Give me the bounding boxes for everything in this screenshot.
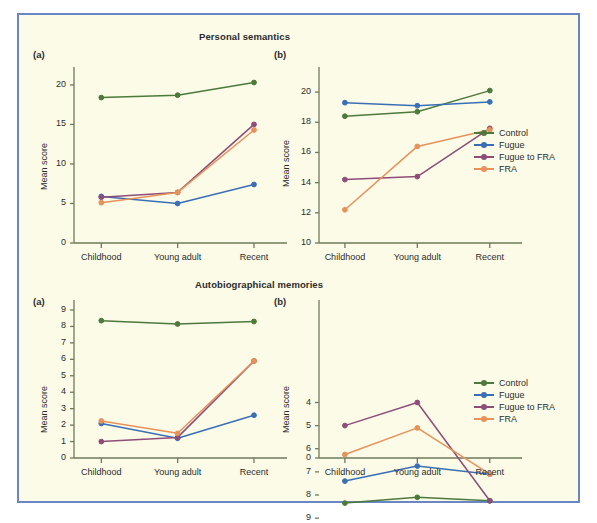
- data-point: [343, 207, 348, 212]
- y-tick-label: 9: [40, 304, 66, 314]
- x-tick-label: Childhood: [61, 467, 141, 477]
- y-tick-label: 5: [40, 370, 66, 380]
- legend-marker-icon: [474, 401, 494, 413]
- data-point: [343, 452, 348, 457]
- y-tick-label: 9: [285, 512, 311, 522]
- legend-label: Control: [499, 127, 528, 139]
- y-tick-label: 5: [285, 420, 311, 430]
- legend-label: Control: [499, 377, 528, 389]
- data-point: [99, 195, 104, 200]
- legend-item: Fugue: [474, 139, 555, 151]
- data-point: [175, 322, 180, 327]
- y-tick-label: 3: [40, 403, 66, 413]
- data-point: [415, 144, 420, 149]
- x-tick-label: Recent: [214, 467, 294, 477]
- series-line: [345, 403, 490, 501]
- y-tick-label: 4: [40, 386, 66, 396]
- legend-personal-semantics: ControlFugueFugue to FRAFRA: [474, 127, 555, 175]
- legend-marker-icon: [474, 389, 494, 401]
- legend-label: FRA: [499, 413, 517, 425]
- data-point: [415, 400, 420, 405]
- legend-item: Fugue to FRA: [474, 151, 555, 163]
- data-point: [99, 439, 104, 444]
- legend-label: Fugue: [499, 389, 525, 401]
- data-point: [343, 423, 348, 428]
- series-line: [345, 128, 490, 179]
- legend-label: FRA: [499, 163, 517, 175]
- data-point: [252, 182, 257, 187]
- legend-item: FRA: [474, 163, 555, 175]
- legend-marker-icon: [474, 127, 494, 139]
- data-point: [99, 95, 104, 100]
- x-tick-label: Childhood: [61, 252, 141, 262]
- y-tick-label: 8: [40, 320, 66, 330]
- y-tick-label: 2: [40, 419, 66, 429]
- data-point: [343, 177, 348, 182]
- x-tick-label: Childhood: [305, 252, 385, 262]
- data-point: [252, 359, 257, 364]
- x-tick-label: Recent: [450, 467, 530, 477]
- data-point: [343, 100, 348, 105]
- legend-item: Control: [474, 127, 555, 139]
- y-tick-label: 12: [285, 207, 311, 217]
- y-tick-label: 10: [40, 158, 66, 168]
- data-point: [487, 100, 492, 105]
- data-point: [175, 201, 180, 206]
- y-tick-label: 10: [285, 237, 311, 247]
- data-point: [175, 93, 180, 98]
- data-point: [252, 319, 257, 324]
- data-point: [415, 426, 420, 431]
- data-point: [343, 114, 348, 119]
- x-tick-label: Young adult: [377, 467, 457, 477]
- data-point: [252, 413, 257, 418]
- legend-label: Fugue: [499, 139, 525, 151]
- data-point: [175, 431, 180, 436]
- legend-marker-icon: [474, 151, 494, 163]
- data-point: [415, 103, 420, 108]
- legend-label: Fugue to FRA: [499, 401, 555, 413]
- data-point: [252, 80, 257, 85]
- data-point: [343, 479, 348, 484]
- figure-root: Personal semantics Autobiographical memo…: [0, 0, 597, 523]
- legend-marker-icon: [474, 377, 494, 389]
- y-tick-label: 5: [40, 197, 66, 207]
- data-point: [252, 128, 257, 133]
- legend-label: Fugue to FRA: [499, 151, 555, 163]
- y-tick-label: 8: [285, 489, 311, 499]
- data-point: [415, 174, 420, 179]
- legend-autobiographical: ControlFugueFugue to FRAFRA: [474, 377, 555, 425]
- y-tick-label: 15: [40, 118, 66, 128]
- plot-area-personal-semantics-a: [19, 15, 299, 265]
- legend-item: Control: [474, 377, 555, 389]
- series-line: [101, 361, 254, 442]
- y-tick-label: 20: [285, 86, 311, 96]
- x-tick-label: Young adult: [138, 467, 218, 477]
- data-point: [175, 190, 180, 195]
- data-point: [99, 419, 104, 424]
- y-tick-label: 14: [285, 177, 311, 187]
- legend-marker-icon: [474, 163, 494, 175]
- series-line: [101, 124, 254, 197]
- data-point: [252, 122, 257, 127]
- x-tick-label: Recent: [214, 252, 294, 262]
- series-line: [345, 130, 490, 210]
- data-point: [99, 200, 104, 205]
- y-tick-label: 0: [285, 452, 311, 462]
- data-point: [487, 88, 492, 93]
- y-tick-label: 4: [285, 397, 311, 407]
- data-point: [415, 495, 420, 500]
- y-tick-label: 7: [40, 337, 66, 347]
- y-tick-label: 20: [40, 79, 66, 89]
- figure-panel: Personal semantics Autobiographical memo…: [17, 13, 580, 503]
- data-point: [487, 498, 492, 503]
- y-tick-label: 6: [40, 353, 66, 363]
- y-tick-label: 18: [285, 116, 311, 126]
- data-point: [99, 318, 104, 323]
- legend-item: Fugue to FRA: [474, 401, 555, 413]
- legend-item: Fugue: [474, 389, 555, 401]
- data-point: [343, 501, 348, 506]
- x-tick-label: Recent: [450, 252, 530, 262]
- x-tick-label: Young adult: [138, 252, 218, 262]
- data-point: [415, 109, 420, 114]
- y-tick-label: 0: [40, 452, 66, 462]
